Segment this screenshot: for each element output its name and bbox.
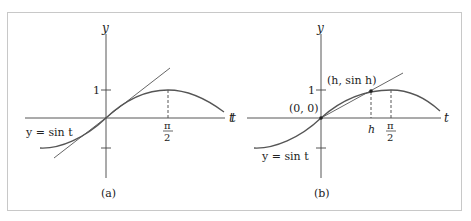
origin-point-b	[319, 116, 323, 120]
t-axis-label-b: t	[444, 111, 449, 125]
y-axis-label-a: y	[101, 21, 109, 35]
sine-curve-b	[254, 90, 440, 148]
curve-label-b: y = sin t	[261, 150, 309, 163]
tick-one-label-a: 1	[93, 84, 100, 97]
two-label-a: 2	[164, 132, 170, 143]
h-point-b	[369, 89, 373, 93]
panel-a: y t 1 π 2 y = sin t (a)	[25, 21, 234, 200]
caption-a: (a)	[101, 187, 116, 200]
two-label-b: 2	[387, 132, 393, 143]
caption-b: (b)	[314, 187, 330, 200]
point-label-b: (h, sin h)	[327, 74, 377, 87]
y-axis-label-b: y	[316, 21, 324, 35]
h-label-b: h	[368, 123, 375, 136]
pi-label-a: π	[164, 120, 171, 131]
panel-b: t y t 1 (h, sin h) (0, 0) h π 2 y = sin …	[231, 21, 449, 200]
tangent-line-a	[54, 68, 170, 158]
curve-label-a: y = sin t	[25, 126, 73, 139]
origin-label-b: (0, 0)	[289, 102, 319, 115]
sine-curve-a	[40, 90, 224, 148]
left-t-label-b: t	[231, 111, 236, 125]
figure-canvas: y t 1 π 2 y = sin t (a) t y t 1 (h, sin …	[0, 0, 471, 221]
tick-one-label-b: 1	[308, 84, 315, 97]
pi-label-b: π	[387, 120, 394, 131]
